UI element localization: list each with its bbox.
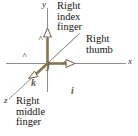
y-axis-label: y: [42, 0, 46, 9]
i-hat-caret: ^: [62, 60, 67, 69]
right-thumb-label: Right thumb: [86, 34, 113, 55]
j-hat-label: ^ j: [37, 41, 50, 82]
i-hat-label: ^ i: [61, 66, 74, 107]
k-hat-caret: ^: [22, 52, 27, 61]
x-axis-label: x: [128, 57, 132, 66]
right-hand-rule-figure: y x z ^ i ^ j ^ k Right index finger Rig…: [0, 0, 138, 136]
index-finger-leader-line: [51, 33, 80, 60]
right-index-finger-label: Right index finger: [57, 1, 82, 33]
right-middle-finger-label: Right middle finger: [16, 96, 45, 128]
j-hat-arrowhead: [44, 28, 52, 37]
i-hat-letter: i: [71, 85, 74, 96]
k-hat-label: ^ k: [21, 58, 36, 99]
j-hat-caret: ^: [38, 35, 43, 44]
z-axis-label: z: [4, 96, 8, 105]
j-hat-letter: j: [47, 60, 50, 71]
k-hat-letter: k: [31, 77, 36, 88]
